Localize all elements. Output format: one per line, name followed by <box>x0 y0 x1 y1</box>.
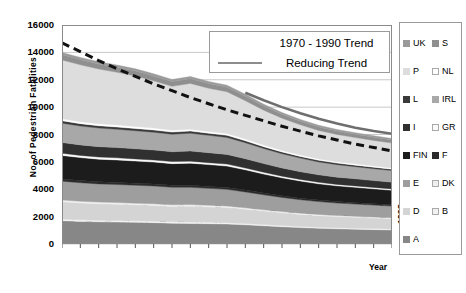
legend-swatch-icon <box>432 124 439 131</box>
legend-item[interactable]: UK <box>403 29 434 57</box>
legend-item-label: E <box>413 178 419 188</box>
legend-item-label: L <box>413 94 418 104</box>
legend-item-label: F <box>442 150 448 160</box>
legend-swatch-icon <box>432 208 439 215</box>
y-axis-title: No. of Pedestrian Fatalities <box>28 32 38 202</box>
y-axis-tick-label: 10000 <box>10 101 54 112</box>
legend-swatch-icon <box>432 180 439 187</box>
legend-swatch-icon <box>432 96 439 103</box>
legend-item[interactable]: IRL <box>432 85 463 113</box>
y-axis-tick-label: 12000 <box>10 74 54 85</box>
legend-item-label: GR <box>442 122 456 132</box>
legend-item-label: A <box>413 234 419 244</box>
legend-item[interactable]: I <box>403 113 434 141</box>
y-axis-tick-label: 6000 <box>10 156 54 167</box>
legend-item-label: I <box>413 122 416 132</box>
legend-item-label: B <box>442 206 448 216</box>
trend-legend-row: Reducing Trend <box>210 52 391 73</box>
trend-legend: 1970 - 1990 Trend Reducing Trend <box>209 31 390 73</box>
legend-swatch-icon <box>432 40 439 47</box>
trend-legend-row: 1970 - 1990 Trend <box>210 32 391 53</box>
country-legend: UKPLIFINEDA SNLIRLGRFDKB <box>399 22 462 255</box>
y-axis-tick-label: 2000 <box>10 211 54 222</box>
legend-item-label: DK <box>442 178 455 188</box>
x-axis-title: Year <box>369 262 387 272</box>
legend-item[interactable]: B <box>432 197 463 225</box>
legend-swatch-icon <box>403 68 410 75</box>
legend-item-label: IRL <box>442 94 456 104</box>
legend-item-label: S <box>442 38 448 48</box>
legend-item[interactable]: E <box>403 169 434 197</box>
legend-item-label: NL <box>442 66 454 76</box>
legend-swatch-icon <box>403 208 410 215</box>
legend-item[interactable]: DK <box>432 169 463 197</box>
legend-item[interactable]: FIN <box>403 141 434 169</box>
legend-swatch-icon <box>403 180 410 187</box>
legend-column-right: SNLIRLGRFDKB <box>432 29 463 225</box>
legend-item[interactable]: F <box>432 141 463 169</box>
legend-item[interactable]: GR <box>432 113 463 141</box>
chart-figure: No. of Pedestrian Fatalities 02000400060… <box>0 0 466 293</box>
legend-swatch-icon <box>403 152 410 159</box>
legend-item[interactable]: NL <box>432 57 463 85</box>
legend-column-left: UKPLIFINEDA <box>403 29 434 253</box>
legend-item-label: UK <box>413 38 426 48</box>
dashed-line-swatch-icon <box>210 37 268 49</box>
legend-swatch-icon <box>403 124 410 131</box>
legend-swatch-icon <box>403 40 410 47</box>
legend-swatch-icon <box>432 68 439 75</box>
legend-swatch-icon <box>432 152 439 159</box>
trend-legend-label: 1970 - 1990 Trend <box>268 37 391 49</box>
solid-line-swatch-icon <box>210 57 268 69</box>
legend-swatch-icon <box>403 96 410 103</box>
trend-legend-label: Reducing Trend <box>268 57 391 69</box>
y-axis-tick-label: 8000 <box>10 129 54 140</box>
legend-swatch-icon <box>403 236 410 243</box>
legend-item[interactable]: P <box>403 57 434 85</box>
legend-item[interactable]: A <box>403 225 434 253</box>
y-axis-tick-label: 0 <box>10 238 54 249</box>
legend-item[interactable]: S <box>432 29 463 57</box>
legend-item[interactable]: L <box>403 85 434 113</box>
y-axis-tick-label: 16000 <box>10 19 54 30</box>
legend-item-label: FIN <box>413 150 428 160</box>
legend-item-label: D <box>413 206 420 216</box>
y-axis-tick-label: 4000 <box>10 183 54 194</box>
y-axis-tick-label: 14000 <box>10 46 54 57</box>
legend-item-label: P <box>413 66 419 76</box>
legend-item[interactable]: D <box>403 197 434 225</box>
